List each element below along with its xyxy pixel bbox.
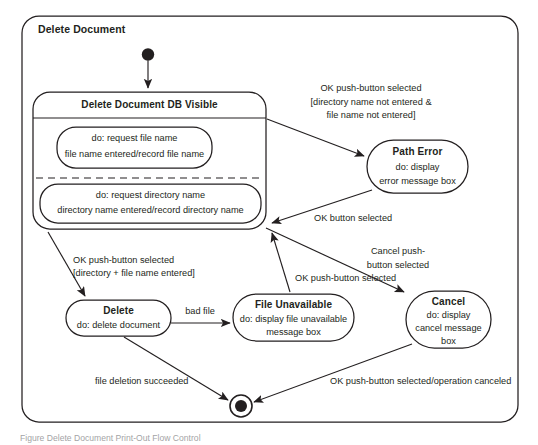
initial-state <box>142 48 154 88</box>
transition-cancel-to-final-line <box>254 344 412 402</box>
transition-delete-bad-file-label: bad file <box>185 306 215 316</box>
state-delete-document-db-visible[interactable]: Delete Document DB Visible do: request f… <box>33 92 266 229</box>
substate-file-name-line-1: do: request file name <box>92 133 178 143</box>
transition-path-error-return-label: OK button selected <box>314 213 392 223</box>
figure-caption: Figure Delete Document Print-Out Flow Co… <box>0 431 538 445</box>
state-cancel[interactable]: Cancel do: display cancel message box <box>406 291 491 348</box>
state-diagram-canvas: Delete Document Delete Document DB Visib… <box>0 0 538 445</box>
substate-request-directory-name[interactable]: do: request directory name directory nam… <box>40 184 261 223</box>
state-path-error-line-1: do: display <box>396 162 440 172</box>
transition-file-unavailable-return-line <box>272 233 290 292</box>
state-delete-title: Delete <box>103 305 134 316</box>
state-file-unavailable-title: File Unavailable <box>255 299 333 310</box>
transition-delete-bad-file: bad file <box>171 306 230 323</box>
state-cancel-line-1: do: display <box>427 310 471 320</box>
transition-to-delete-label-2: [directory + file name entered] <box>73 268 195 278</box>
state-cancel-line-3: box <box>441 336 456 346</box>
transition-delete-success: file deletion succeeded <box>95 337 228 400</box>
composite-state-title: Delete Document DB Visible <box>81 99 218 110</box>
transition-delete-success-line <box>124 337 228 400</box>
final-state-dot <box>235 400 247 412</box>
transition-to-path-error-label-2: [directory name not entered & <box>310 97 431 107</box>
state-delete[interactable]: Delete do: delete document <box>66 300 171 336</box>
state-file-unavailable-line-1: do: display file unavailable <box>240 314 347 324</box>
transition-cancel-to-final: OK push-button selected/operation cancel… <box>254 344 511 402</box>
state-path-error-title: Path Error <box>393 146 443 157</box>
state-cancel-line-2: cancel message <box>415 323 481 333</box>
transition-file-unavailable-return-label: OK push-button selected <box>295 273 396 283</box>
substate-directory-name-line-2: directory name entered/record directory … <box>57 205 243 215</box>
transition-cancel-to-final-label: OK push-button selected/operation cancel… <box>330 376 511 386</box>
transition-to-cancel-label-1: Cancel push- <box>371 246 425 256</box>
transition-to-path-error-label-3: file name not entered] <box>327 110 416 120</box>
state-path-error[interactable]: Path Error do: display error message box <box>367 140 468 193</box>
substate-directory-name-line-1: do: request directory name <box>96 190 205 200</box>
frame-title: Delete Document <box>38 23 126 35</box>
substate-file-name-line-2: file name entered/record file name <box>65 149 204 159</box>
figure-caption-text: Figure Delete Document Print-Out Flow Co… <box>0 431 538 445</box>
state-file-unavailable-line-2: message box <box>266 327 321 337</box>
uml-state-diagram: Delete Document Delete Document DB Visib… <box>0 0 538 445</box>
transition-delete-success-label: file deletion succeeded <box>95 376 188 386</box>
state-path-error-line-2: error message box <box>379 176 456 186</box>
transition-to-delete: OK push-button selected [directory + fil… <box>48 232 195 296</box>
transition-to-path-error-label-1: OK push-button selected <box>320 83 421 93</box>
state-file-unavailable[interactable]: File Unavailable do: display file unavai… <box>233 294 354 341</box>
transition-to-path-error-line <box>267 119 364 156</box>
substate-request-file-name[interactable]: do: request file name file name entered/… <box>57 127 212 168</box>
transition-path-error-return: OK button selected <box>272 190 392 223</box>
state-delete-line-1: do: delete document <box>77 320 161 330</box>
final-state <box>230 395 252 417</box>
initial-state-dot <box>142 48 154 60</box>
state-cancel-title: Cancel <box>432 296 466 307</box>
transition-to-cancel-label-2: button selected <box>367 260 429 270</box>
transition-to-delete-label-1: OK push-button selected <box>73 255 174 265</box>
